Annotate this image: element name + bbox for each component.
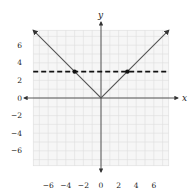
intersection-point bbox=[125, 69, 129, 73]
x-tick-label: −2 bbox=[78, 181, 89, 190]
y-tick-label: 2 bbox=[17, 76, 22, 85]
y-tick-label: −4 bbox=[11, 129, 22, 138]
y-axis-label: y bbox=[97, 10, 104, 20]
y-tick-label: 0 bbox=[17, 94, 22, 103]
x-tick-label: −6 bbox=[43, 181, 54, 190]
intersection-point bbox=[72, 69, 76, 73]
x-axis-label: x bbox=[182, 93, 187, 103]
x-tick-label: 6 bbox=[151, 181, 156, 190]
graph: −6−4−202466420−2−4−6 x y bbox=[0, 0, 193, 195]
y-tick-label: 6 bbox=[17, 41, 22, 50]
x-tick-label: 0 bbox=[99, 181, 104, 190]
y-tick-label: 4 bbox=[17, 58, 22, 67]
x-tick-label: −4 bbox=[60, 181, 71, 190]
y-tick-label: −2 bbox=[11, 111, 22, 120]
y-tick-label: −6 bbox=[11, 146, 22, 155]
x-tick-label: 2 bbox=[116, 181, 121, 190]
x-tick-label: 4 bbox=[134, 181, 139, 190]
